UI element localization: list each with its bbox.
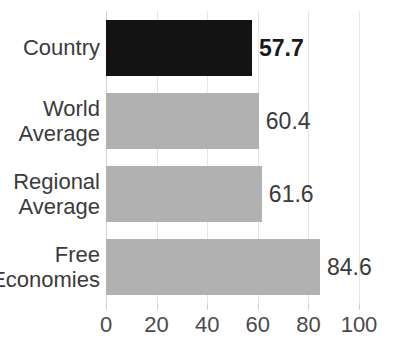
bar-chart: Country World Average Regional Average F… [0, 0, 395, 355]
bar-regional-average[interactable] [106, 166, 262, 222]
tick-mark-60 [258, 303, 259, 310]
plot-area: 57.760.461.684.6 [106, 11, 359, 303]
category-axis-labels: Country World Average Regional Average F… [0, 11, 100, 303]
bar-world-average[interactable] [106, 93, 259, 149]
bar-country[interactable] [106, 20, 252, 76]
tick-mark-40 [207, 303, 208, 310]
category-label-regional-average: Regional Average [0, 157, 100, 230]
category-label-line: Average [18, 194, 100, 219]
bar-value-label: 84.6 [320, 239, 372, 295]
bar-row: 61.6 [106, 157, 359, 230]
bar-value-label: 61.6 [262, 166, 314, 222]
x-tick-label-20: 20 [144, 312, 168, 338]
bar-row: 60.4 [106, 84, 359, 157]
x-tick-label-40: 40 [195, 312, 219, 338]
category-label-country: Country [0, 11, 100, 84]
x-tick-label-0: 0 [100, 312, 112, 338]
x-tick-label-80: 80 [296, 312, 320, 338]
tick-mark-100 [359, 303, 360, 310]
category-label-line: Regional [13, 169, 100, 194]
bar-row: 84.6 [106, 230, 359, 303]
category-label-line: Free [55, 242, 100, 267]
category-label-line: Average [18, 121, 100, 146]
category-label-line: Country [23, 35, 100, 60]
tick-mark-20 [157, 303, 158, 310]
category-label-line: Economies [0, 267, 100, 292]
bar-value-label: 60.4 [259, 93, 311, 149]
category-label-line: World [43, 96, 100, 121]
category-label-free-economies: Free Economies [0, 230, 100, 303]
x-tick-label-100: 100 [341, 312, 378, 338]
bar-row: 57.7 [106, 11, 359, 84]
tick-mark-0 [106, 303, 107, 310]
bar-free-economies[interactable] [106, 239, 320, 295]
tick-mark-80 [308, 303, 309, 310]
bar-value-label: 57.7 [252, 20, 304, 76]
category-label-world-average: World Average [0, 84, 100, 157]
x-tick-label-60: 60 [246, 312, 270, 338]
